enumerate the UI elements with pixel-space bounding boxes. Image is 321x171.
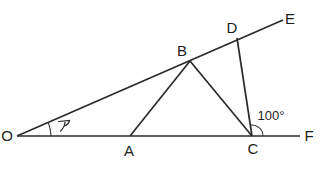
- segment-AB: [130, 61, 190, 136]
- point-label-A: A: [124, 142, 134, 159]
- point-label-F: F: [304, 127, 313, 144]
- angle-100-at-C-label: 100°: [258, 108, 285, 123]
- katakana-a-glyph: [59, 121, 70, 132]
- point-label-D: D: [227, 19, 238, 36]
- point-label-B: B: [177, 42, 187, 59]
- point-label-C: C: [248, 140, 259, 157]
- angle-arcs-layer: [48, 122, 263, 136]
- geometry-diagram: 100°OABCDEF: [0, 0, 321, 171]
- point-label-O: O: [1, 127, 13, 144]
- diagram-canvas: 100°OABCDEF: [0, 0, 321, 171]
- angle-a-at-O-arc: [48, 122, 51, 136]
- point-label-E: E: [285, 10, 295, 27]
